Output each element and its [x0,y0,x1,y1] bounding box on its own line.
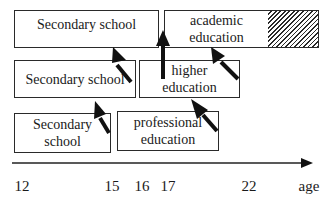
arrow-higher-to-academic-vertical [156,30,170,79]
axis-tick-12: 12 [15,178,30,195]
axis-tick-15: 15 [105,178,120,195]
arrow-higher-to-academic-diagonal [211,47,238,79]
arrow-secondary-bottom-to-mid [94,101,109,133]
axis-tick-16: 16 [135,178,150,195]
arrow-secondary-mid-to-top [112,47,131,82]
arrows-and-axis [0,0,328,208]
arrow-professional-to-higher [191,99,217,131]
age-axis [12,158,313,168]
axis-tick-17: 17 [161,178,176,195]
axis-tick-22: 22 [242,178,257,195]
axis-label-age: age [299,178,320,195]
